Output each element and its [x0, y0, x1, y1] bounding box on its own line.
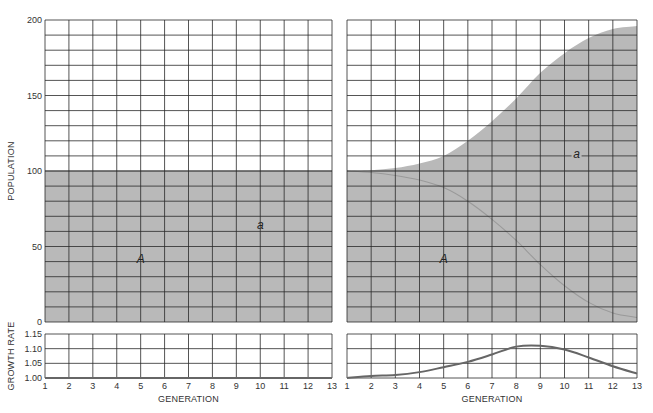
y-tick-label: 0 [37, 317, 42, 327]
x-tick-label: 7 [186, 381, 191, 391]
x-tick-label: 13 [632, 381, 642, 391]
growth-y-tick-label: 1.15 [24, 329, 42, 339]
x-tick-label: 4 [417, 381, 422, 391]
x-tick-label: 12 [303, 381, 313, 391]
panel-left: 050100150200POPULATIONAa [6, 15, 332, 327]
x-tick-label: 10 [255, 381, 265, 391]
x-tick-label: 9 [538, 381, 543, 391]
x-tick-label: 1 [344, 381, 349, 391]
x-tick-label: 10 [559, 381, 569, 391]
growth-y-tick-label: 1.10 [24, 344, 42, 354]
x-tick-label: 13 [327, 381, 337, 391]
y-tick-label: 50 [32, 242, 42, 252]
growth-y-tick-label: 1.00 [24, 373, 42, 383]
y-axis-label-population: POPULATION [6, 141, 16, 200]
x-tick-label: 5 [138, 381, 143, 391]
y-axis-label-growth-rate: GROWTH RATE [6, 321, 16, 390]
panel-right: Aa [347, 20, 637, 322]
x-axis-label-generation: GENERATION [158, 394, 219, 404]
y-tick-label: 100 [27, 166, 42, 176]
allele-label-A: A [136, 252, 145, 266]
y-tick-label: 150 [27, 91, 42, 101]
x-tick-label: 11 [279, 381, 288, 391]
growth-rate-plot-left: 12345678910111213GENERATION1.001.051.101… [6, 321, 337, 404]
growth-rate-plot-right: 12345678910111213GENERATION [344, 334, 642, 404]
x-tick-label: 2 [66, 381, 71, 391]
allele-label-a: a [573, 147, 580, 161]
x-tick-label: 3 [90, 381, 95, 391]
x-tick-label: 11 [584, 381, 593, 391]
x-tick-label: 2 [369, 381, 374, 391]
allele-label-A: A [439, 252, 448, 266]
x-tick-label: 5 [441, 381, 446, 391]
x-tick-label: 8 [514, 381, 519, 391]
x-tick-label: 1 [42, 381, 47, 391]
selection-population-chart: 050100150200POPULATIONAa1234567891011121… [0, 0, 653, 413]
x-tick-label: 3 [393, 381, 398, 391]
x-tick-label: 6 [465, 381, 470, 391]
x-tick-label: 6 [162, 381, 167, 391]
x-tick-label: 4 [114, 381, 119, 391]
growth-y-tick-label: 1.05 [24, 358, 42, 368]
allele-label-a: a [257, 218, 264, 232]
x-axis-label-generation: GENERATION [462, 394, 523, 404]
x-tick-label: 9 [234, 381, 239, 391]
x-tick-label: 8 [210, 381, 215, 391]
x-tick-label: 12 [608, 381, 618, 391]
y-tick-label: 200 [27, 15, 42, 25]
x-tick-label: 7 [489, 381, 494, 391]
